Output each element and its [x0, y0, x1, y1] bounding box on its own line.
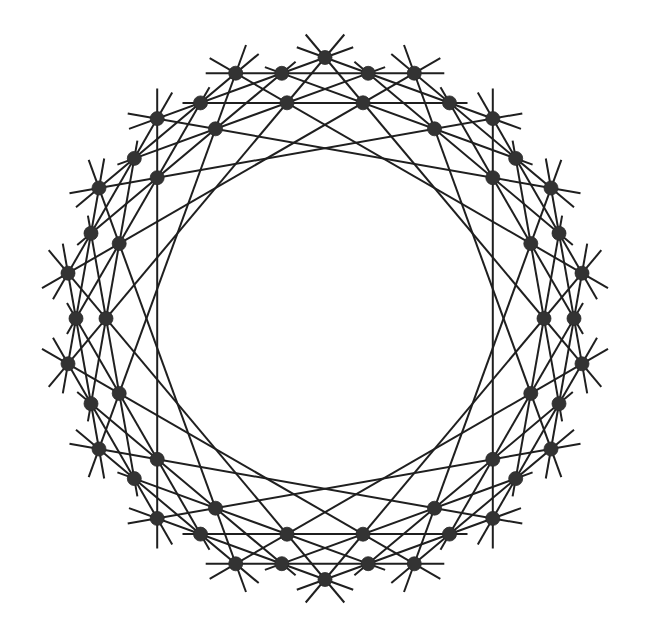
configuration-point — [92, 442, 106, 456]
configuration-point — [194, 96, 208, 110]
configuration-point — [92, 181, 106, 195]
configuration-point — [443, 96, 457, 110]
configuration-point — [69, 312, 83, 326]
configuration-point — [428, 501, 442, 515]
configuration-point — [275, 66, 289, 80]
configuration-point — [407, 66, 421, 80]
background — [0, 0, 648, 643]
configuration-point — [575, 357, 589, 371]
configuration-point — [318, 51, 332, 65]
configuration-point — [524, 386, 538, 400]
configuration-point — [84, 397, 98, 411]
configuration-point — [575, 266, 589, 280]
configuration-point — [356, 96, 370, 110]
configuration-point — [127, 151, 141, 165]
configuration-point — [209, 122, 223, 136]
configuration-point — [318, 573, 332, 587]
configuration-point — [486, 112, 500, 126]
configuration-point — [524, 237, 538, 251]
configuration-point — [209, 501, 223, 515]
configuration-point — [84, 226, 98, 240]
configuration-point — [537, 312, 551, 326]
configuration-point — [361, 66, 375, 80]
configuration-diagram — [0, 0, 648, 643]
configuration-point — [229, 66, 243, 80]
configuration-point — [150, 452, 164, 466]
configuration-point — [356, 527, 370, 541]
configuration-point — [361, 557, 375, 571]
configuration-point — [486, 452, 500, 466]
configuration-point — [150, 112, 164, 126]
configuration-point — [61, 266, 75, 280]
configuration-point — [280, 527, 294, 541]
configuration-point — [99, 312, 113, 326]
configuration-point — [509, 151, 523, 165]
configuration-point — [567, 312, 581, 326]
configuration-point — [150, 511, 164, 525]
configuration-point — [509, 472, 523, 486]
configuration-point — [428, 122, 442, 136]
configuration-point — [407, 557, 421, 571]
configuration-point — [443, 527, 457, 541]
configuration-point — [280, 96, 294, 110]
configuration-point — [112, 386, 126, 400]
configuration-point — [229, 557, 243, 571]
configuration-point — [150, 171, 164, 185]
configuration-point — [552, 397, 566, 411]
configuration-point — [486, 171, 500, 185]
configuration-point — [112, 237, 126, 251]
configuration-point — [552, 226, 566, 240]
configuration-point — [544, 442, 558, 456]
configuration-point — [544, 181, 558, 195]
configuration-point — [275, 557, 289, 571]
configuration-point — [486, 511, 500, 525]
configuration-point — [194, 527, 208, 541]
configuration-point — [61, 357, 75, 371]
configuration-point — [127, 472, 141, 486]
